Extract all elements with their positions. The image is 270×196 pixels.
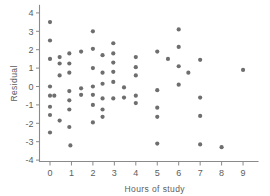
y-tick-label: 2 — [28, 45, 33, 55]
data-point — [67, 71, 71, 75]
data-point — [186, 71, 190, 75]
tick-marks — [36, 13, 243, 166]
data-point — [91, 103, 95, 107]
x-tick-label: 9 — [241, 168, 246, 178]
data-point — [122, 95, 126, 99]
x-tick-label: 8 — [219, 168, 224, 178]
data-point — [166, 57, 170, 61]
data-point — [48, 94, 52, 98]
data-point — [48, 57, 52, 61]
data-point — [58, 73, 62, 77]
x-tick-label: 2 — [90, 168, 95, 178]
data-point — [67, 51, 71, 55]
axes — [40, 5, 259, 161]
data-point — [134, 101, 138, 105]
data-point — [111, 41, 115, 45]
data-point — [48, 20, 52, 24]
y-tick-label: -4 — [25, 155, 33, 165]
x-tick-label: 0 — [47, 168, 52, 178]
data-point — [48, 130, 52, 134]
data-point — [100, 71, 104, 75]
data-point — [134, 94, 138, 98]
data-point — [52, 94, 56, 98]
data-point — [111, 80, 115, 84]
data-point — [198, 95, 202, 99]
data-point — [58, 61, 62, 65]
data-point — [155, 141, 159, 145]
data-point — [111, 51, 115, 55]
y-axis-title: Residual — [9, 65, 19, 101]
data-point — [79, 93, 83, 97]
data-point — [111, 70, 115, 74]
y-tick-label: 0 — [28, 82, 33, 92]
data-point — [67, 89, 71, 93]
data-point — [100, 115, 104, 119]
y-tick-label: 4 — [28, 8, 33, 18]
data-point — [100, 53, 104, 57]
x-tick-label: 7 — [198, 168, 203, 178]
data-point — [241, 68, 245, 72]
data-point — [134, 65, 138, 69]
scatter-plot-figure: 0123456789 -4-3-2-101234 Hours of study … — [0, 0, 270, 196]
data-point — [198, 142, 202, 146]
data-point — [134, 55, 138, 59]
data-point — [155, 115, 159, 119]
data-point — [134, 73, 138, 77]
data-point — [91, 29, 95, 33]
data-point — [58, 118, 62, 122]
x-tick-label: 4 — [133, 168, 138, 178]
data-point — [91, 84, 95, 88]
data-point — [67, 107, 71, 111]
data-points — [48, 20, 245, 149]
y-tick-label: 1 — [28, 63, 33, 73]
data-point — [48, 113, 52, 117]
data-point — [111, 96, 115, 100]
y-tick-label: 3 — [28, 27, 33, 37]
x-tick-label: 1 — [69, 168, 74, 178]
y-tick-label: -2 — [25, 119, 33, 129]
data-point — [155, 49, 159, 53]
x-axis-title: Hours of study — [125, 184, 186, 194]
data-point — [177, 27, 181, 31]
data-point — [58, 55, 62, 59]
data-point — [155, 106, 159, 110]
data-point — [91, 66, 95, 70]
data-point — [91, 47, 95, 51]
y-tick-label: -1 — [25, 100, 33, 110]
data-point — [100, 96, 104, 100]
data-point — [48, 38, 52, 42]
x-tick-label: 3 — [112, 168, 117, 178]
data-point — [91, 120, 95, 124]
data-point — [48, 105, 52, 109]
y-axis-tick-labels: -4-3-2-101234 — [25, 8, 33, 165]
data-point — [122, 85, 126, 89]
data-point — [100, 107, 104, 111]
data-point — [155, 88, 159, 92]
data-point — [68, 143, 72, 147]
data-point — [79, 86, 83, 90]
plot-canvas: 0123456789 -4-3-2-101234 Hours of study … — [0, 0, 270, 196]
data-point — [198, 58, 202, 62]
y-tick-label: -3 — [25, 137, 33, 147]
data-point — [177, 45, 181, 49]
data-point — [79, 49, 83, 53]
data-point — [48, 84, 52, 88]
x-axis-tick-labels: 0123456789 — [47, 168, 245, 178]
data-point — [91, 93, 95, 97]
data-point — [177, 64, 181, 68]
x-tick-label: 6 — [176, 168, 181, 178]
data-point — [198, 114, 202, 118]
x-tick-label: 5 — [155, 168, 160, 178]
data-point — [177, 83, 181, 87]
data-point — [67, 61, 71, 65]
data-point — [67, 98, 71, 102]
data-point — [100, 82, 104, 86]
data-point — [67, 125, 71, 129]
data-point — [220, 145, 224, 149]
data-point — [111, 60, 115, 64]
